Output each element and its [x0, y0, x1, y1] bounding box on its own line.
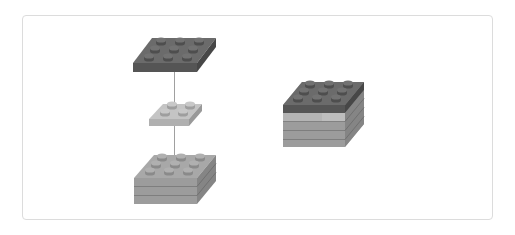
bottom-brick-stack	[134, 153, 216, 204]
assembled-brick	[283, 80, 364, 147]
top-dark-plate	[133, 37, 216, 72]
brick-diagram	[0, 0, 515, 235]
middle-light-plate	[149, 101, 202, 126]
